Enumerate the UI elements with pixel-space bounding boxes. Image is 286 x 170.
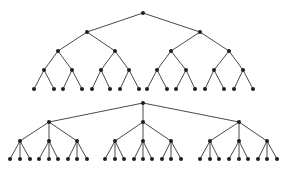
tree-leaf-node — [80, 87, 84, 91]
tree-node — [56, 49, 60, 53]
tree-leaf-node — [118, 87, 122, 91]
tree-node — [265, 139, 269, 143]
tree-node — [70, 68, 74, 72]
tree-leaf-node — [137, 87, 141, 91]
tree-node — [212, 68, 216, 72]
tree-node — [237, 120, 241, 124]
tree-diagram — [0, 0, 286, 170]
tree-leaf-node — [28, 157, 32, 161]
tree-root-node — [141, 11, 145, 15]
tree-leaf-node — [52, 87, 56, 91]
tree-node — [113, 49, 117, 53]
tree-leaf-node — [217, 157, 221, 161]
tree-leaf-node — [160, 157, 164, 161]
tree-node — [241, 68, 245, 72]
tree-leaf-node — [222, 87, 226, 91]
tree-node — [99, 68, 103, 72]
tree-leaf-node — [37, 157, 41, 161]
tree-leaf-node — [103, 157, 107, 161]
tree-leaf-node — [113, 157, 117, 161]
tree-leaf-node — [66, 157, 70, 161]
tree-node — [47, 139, 51, 143]
tree-node — [85, 30, 89, 34]
tree-leaf-node — [90, 87, 94, 91]
tree-leaf-node — [193, 87, 197, 91]
tree-leaf-node — [145, 87, 149, 91]
tree-leaf-node — [165, 87, 169, 91]
tree-node — [127, 68, 131, 72]
tree-root-node — [141, 101, 145, 105]
tree-leaf-node — [61, 87, 65, 91]
tree-leaf-node — [208, 157, 212, 161]
tree-leaf-node — [169, 157, 173, 161]
tree-leaf-node — [85, 157, 89, 161]
tree-node — [227, 49, 231, 53]
tree-node — [141, 139, 145, 143]
tree-leaf-node — [237, 157, 241, 161]
tree-node — [237, 139, 241, 143]
tree-leaf-node — [265, 157, 269, 161]
tree-leaf-node — [8, 157, 12, 161]
tree-leaf-node — [56, 157, 60, 161]
tree-node — [155, 68, 159, 72]
tree-leaf-node — [132, 157, 136, 161]
tree-leaf-node — [150, 157, 154, 161]
tree-leaf-node — [232, 87, 236, 91]
tree-leaf-node — [227, 157, 231, 161]
tree-leaf-node — [32, 87, 36, 91]
tree-leaf-node — [275, 157, 279, 161]
tree-leaf-node — [203, 87, 207, 91]
tree-node — [169, 49, 173, 53]
tree-leaf-node — [198, 157, 202, 161]
tree-leaf-node — [122, 157, 126, 161]
tree-node — [141, 120, 145, 124]
tree-leaf-node — [246, 157, 250, 161]
tree-node — [208, 139, 212, 143]
tree-node — [169, 139, 173, 143]
tree-leaf-node — [141, 157, 145, 161]
tree-node — [184, 68, 188, 72]
tree-leaf-node — [174, 87, 178, 91]
tree-leaf-node — [179, 157, 183, 161]
tree-node — [18, 139, 22, 143]
tree-node — [198, 30, 202, 34]
tree-leaf-node — [47, 157, 51, 161]
tree-node — [113, 139, 117, 143]
tree-leaf-node — [251, 87, 255, 91]
tree-leaf-node — [18, 157, 22, 161]
tree-leaf-node — [256, 157, 260, 161]
tree-leaf-node — [75, 157, 79, 161]
tree-leaf-node — [108, 87, 112, 91]
tree-node — [42, 68, 46, 72]
tree-node — [75, 139, 79, 143]
tree-node — [47, 120, 51, 124]
